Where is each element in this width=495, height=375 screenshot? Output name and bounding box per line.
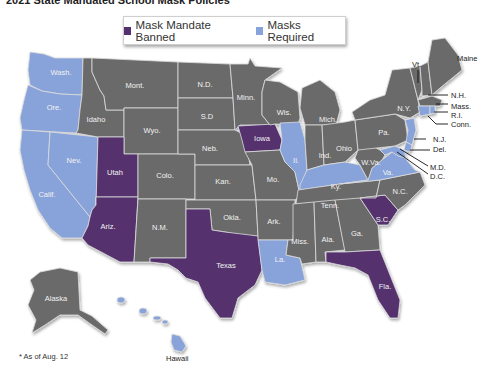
label-ore: Ore. — [47, 103, 62, 112]
label-wva: W.Va. — [361, 158, 380, 167]
label-del: Del. — [433, 145, 446, 154]
label-ga: Ga. — [351, 229, 363, 238]
state-maine — [428, 38, 462, 95]
label-ind: Ind. — [319, 151, 332, 160]
label-il: Il. — [293, 156, 299, 165]
label-wis: Wis. — [277, 108, 292, 117]
label-ny: N.Y. — [397, 104, 411, 113]
label-nm: N.M. — [152, 223, 168, 232]
label-dc: D.C. — [430, 172, 445, 181]
us-map: Wash. Ore. Calif. Nev. Idaho Mont. Wyo. … — [0, 0, 495, 375]
label-miss: Miss. — [291, 237, 309, 246]
label-va: Va. — [383, 168, 394, 177]
label-nc: N.C. — [393, 187, 408, 196]
label-kan: Kan. — [215, 177, 230, 186]
label-md: M.D. — [430, 163, 446, 172]
label-maine: Maine — [457, 54, 477, 63]
label-texas: Texas — [216, 261, 236, 270]
label-nd: N.D. — [198, 80, 213, 89]
label-iowa: Iowa — [254, 134, 271, 143]
label-wash: Wash. — [51, 68, 72, 77]
state-ri — [430, 106, 435, 114]
label-tenn: Tenn. — [321, 201, 339, 210]
label-nh: N.H. — [451, 91, 466, 100]
label-pa: Pa. — [378, 128, 389, 137]
state-wis — [262, 80, 300, 125]
label-ala: Ala. — [322, 235, 335, 244]
label-neb: Neb. — [202, 144, 218, 153]
label-fla: Fla. — [379, 282, 392, 291]
state-mass — [418, 96, 442, 106]
label-mich: Mich. — [319, 115, 337, 124]
label-la: La. — [275, 255, 285, 264]
label-ri: R.I. — [451, 111, 463, 120]
label-nev: Nev. — [67, 156, 82, 165]
label-sc: S.C. — [376, 215, 391, 224]
label-ky: Ky. — [331, 182, 341, 191]
label-alaska: Alaska — [45, 294, 68, 303]
label-ariz: Ariz. — [101, 222, 116, 231]
label-minn: Minn. — [237, 93, 255, 102]
label-nj: N.J. — [433, 135, 446, 144]
label-mass: Mass. — [451, 102, 471, 111]
label-utah: Utah — [107, 168, 123, 177]
label-sd: S.D — [201, 112, 214, 121]
state-ind — [305, 125, 324, 170]
label-mont: Mont. — [126, 81, 145, 90]
state-conn — [418, 106, 430, 116]
label-mo: Mo. — [267, 175, 280, 184]
label-calif: Calif. — [38, 190, 55, 199]
label-vt: Vt. — [412, 60, 421, 69]
label-colo: Colo. — [156, 171, 174, 180]
label-idaho: Idaho — [87, 115, 106, 124]
label-conn: Conn. — [451, 120, 471, 129]
label-ark: Ark. — [267, 217, 280, 226]
footnote: * As of Aug. 12 — [19, 352, 68, 361]
label-wyo: Wyo. — [143, 126, 160, 135]
label-ohio: Ohio — [336, 144, 352, 153]
label-hawaii: Hawaii — [166, 354, 189, 363]
label-okla: Okla. — [223, 213, 241, 222]
state-hawaii — [117, 297, 186, 352]
state-alaska — [28, 268, 108, 334]
